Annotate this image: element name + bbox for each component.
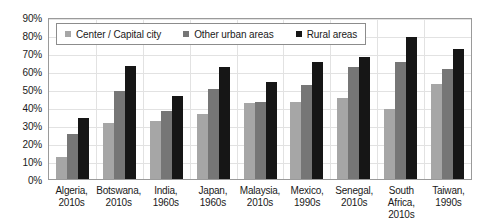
bar bbox=[348, 67, 359, 179]
bar bbox=[219, 67, 230, 179]
bar bbox=[78, 118, 89, 179]
bar bbox=[161, 111, 172, 179]
bar bbox=[67, 134, 78, 179]
x-tick-label-line: India, bbox=[142, 185, 189, 197]
x-tick-label-line: 1960s bbox=[189, 197, 236, 209]
bar bbox=[125, 66, 136, 179]
y-tick-label: 70% bbox=[23, 49, 42, 60]
bar bbox=[197, 114, 208, 179]
legend-item: Other urban areas bbox=[183, 29, 273, 40]
x-tick-label-line: Africa, bbox=[378, 197, 425, 209]
bar-group bbox=[424, 19, 471, 179]
x-tick-label: Algeria,2010s bbox=[48, 182, 95, 224]
legend-swatch-icon bbox=[296, 31, 302, 37]
y-tick-label: 90% bbox=[23, 13, 42, 24]
bar bbox=[337, 98, 348, 179]
bar bbox=[431, 84, 442, 179]
bar bbox=[172, 96, 183, 179]
x-tick-label-line: South bbox=[378, 185, 425, 197]
x-tick-label-line: 1990s bbox=[284, 197, 331, 209]
bar bbox=[208, 89, 219, 179]
x-tick-label: Mexico,1990s bbox=[284, 182, 331, 224]
y-tick-label: 20% bbox=[23, 139, 42, 150]
legend-item-label: Rural areas bbox=[307, 29, 358, 40]
x-tick-label: Japan,1960s bbox=[189, 182, 236, 224]
x-tick-label-line: Malaysia, bbox=[236, 185, 283, 197]
x-tick-label-line: 1960s bbox=[142, 197, 189, 209]
legend-item: Rural areas bbox=[296, 29, 358, 40]
x-tick-label-line: Japan, bbox=[189, 185, 236, 197]
x-tick-label-line: 2010s bbox=[236, 197, 283, 209]
bar bbox=[406, 37, 417, 179]
y-tick-label: 10% bbox=[23, 157, 42, 168]
y-tick-label: 40% bbox=[23, 103, 42, 114]
legend-item-label: Other urban areas bbox=[194, 29, 273, 40]
bar-group bbox=[377, 19, 424, 179]
bar bbox=[266, 82, 277, 179]
legend-swatch-icon bbox=[65, 31, 71, 37]
y-tick-label: 30% bbox=[23, 121, 42, 132]
bar bbox=[453, 49, 464, 179]
x-tick-label-line: 1990s bbox=[425, 197, 472, 209]
bar bbox=[301, 85, 312, 179]
legend-item: Center / Capital city bbox=[65, 29, 161, 40]
x-tick-label: Taiwan,1990s bbox=[425, 182, 472, 224]
x-tick-label: Botswana,2010s bbox=[95, 182, 142, 224]
x-tick-label-line: Mexico, bbox=[284, 185, 331, 197]
y-tick-label: 60% bbox=[23, 67, 42, 78]
x-tick-label: Senegal,2010s bbox=[331, 182, 378, 224]
bar bbox=[244, 103, 255, 179]
bar bbox=[395, 62, 406, 179]
legend-item-label: Center / Capital city bbox=[76, 29, 161, 40]
chart-legend: Center / Capital cityOther urban areasRu… bbox=[56, 23, 366, 45]
y-axis: 0%10%20%30%40%50%60%70%80%90% bbox=[0, 12, 46, 186]
bar bbox=[114, 91, 125, 179]
bar-chart: 0%10%20%30%40%50%60%70%80%90% Center / C… bbox=[0, 0, 480, 224]
x-tick-label-line: Botswana, bbox=[95, 185, 142, 197]
x-axis: Algeria,2010sBotswana,2010sIndia,1960sJa… bbox=[48, 182, 472, 224]
y-tick-label: 0% bbox=[28, 175, 42, 186]
bar bbox=[290, 102, 301, 179]
x-tick-label: Malaysia,2010s bbox=[236, 182, 283, 224]
y-tick-label: 80% bbox=[23, 31, 42, 42]
bar bbox=[384, 109, 395, 179]
x-tick-label: India,1960s bbox=[142, 182, 189, 224]
x-tick-label-line: 2010s bbox=[331, 197, 378, 209]
x-tick-label-line: 2010s bbox=[48, 197, 95, 209]
y-tick-label: 50% bbox=[23, 85, 42, 96]
bar bbox=[56, 157, 67, 179]
bar bbox=[255, 102, 266, 179]
bar bbox=[150, 121, 161, 179]
x-tick-label-line: Taiwan, bbox=[425, 185, 472, 197]
bar bbox=[103, 123, 114, 179]
legend-swatch-icon bbox=[183, 31, 189, 37]
x-tick-label-line: 2010s bbox=[95, 197, 142, 209]
bar bbox=[359, 57, 370, 179]
x-tick-label: SouthAfrica,2010s bbox=[378, 182, 425, 224]
bar bbox=[312, 62, 323, 179]
bar bbox=[442, 69, 453, 179]
x-tick-label-line: Senegal, bbox=[331, 185, 378, 197]
x-tick-label-line: 2010s bbox=[378, 209, 425, 221]
x-tick-label-line: Algeria, bbox=[48, 185, 95, 197]
